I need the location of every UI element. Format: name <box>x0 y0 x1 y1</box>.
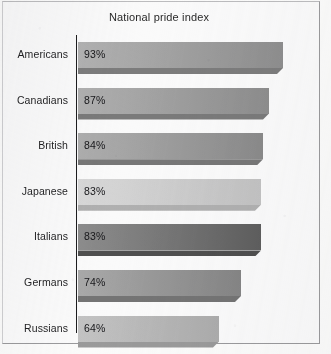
bar[interactable]: 74% <box>78 270 241 296</box>
bar[interactable]: 84% <box>78 133 263 159</box>
bar-shadow <box>78 205 261 211</box>
bar-value-label: 74% <box>84 276 105 288</box>
category-label: Italians <box>0 230 68 242</box>
bar-face <box>78 133 263 159</box>
bar[interactable]: 93% <box>78 42 283 68</box>
category-label: Germans <box>0 276 68 288</box>
bar-row: Americans93% <box>0 42 318 68</box>
bar-value-label: 83% <box>84 230 105 242</box>
bar-value-label: 84% <box>84 139 105 151</box>
bar-value-label: 83% <box>84 185 105 197</box>
bar-shadow <box>78 159 263 165</box>
bar-shadow <box>78 68 283 74</box>
bar-value-label: 64% <box>84 322 105 334</box>
bar-face <box>78 42 283 68</box>
bar-row: British84% <box>0 133 318 159</box>
bar-shadow <box>78 296 241 302</box>
bar-shadow <box>78 250 261 256</box>
bar-row: Russians64% <box>0 316 318 342</box>
category-axis-line <box>76 35 77 333</box>
bar[interactable]: 83% <box>78 179 261 205</box>
chart-title: National pride index <box>0 11 318 23</box>
category-label: British <box>0 139 68 151</box>
category-label: Canadians <box>0 94 68 106</box>
bar-row: Japanese83% <box>0 179 318 205</box>
plot-area: Americans93%Canadians87%British84%Japane… <box>0 31 318 341</box>
bar-shadow <box>78 342 219 348</box>
bar-value-label: 93% <box>84 48 105 60</box>
bar-row: Germans74% <box>0 270 318 296</box>
bar[interactable]: 87% <box>78 88 269 114</box>
bar-face <box>78 224 261 250</box>
bar[interactable]: 64% <box>78 316 219 342</box>
bar-value-label: 87% <box>84 94 105 106</box>
category-label: Japanese <box>0 185 68 197</box>
category-label: Americans <box>0 48 68 60</box>
bar[interactable]: 83% <box>78 224 261 250</box>
bar-shadow <box>78 114 269 120</box>
bar-face <box>78 88 269 114</box>
bar-row: Canadians87% <box>0 88 318 114</box>
category-label: Russians <box>0 322 68 334</box>
chart-screenshot: National pride index Americans93%Canadia… <box>0 0 331 354</box>
bar-face <box>78 179 261 205</box>
bar-row: Italians83% <box>0 224 318 250</box>
